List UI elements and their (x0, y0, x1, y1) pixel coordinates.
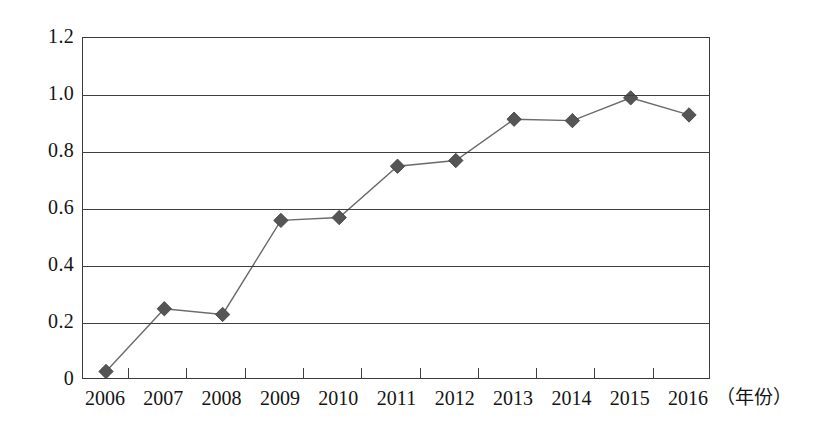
data-point-marker (682, 108, 696, 122)
x-axis-tick-label: 2009 (260, 386, 300, 410)
data-point-marker (449, 153, 463, 167)
series-line (106, 98, 689, 372)
y-axis-tick-label: 0.2 (48, 311, 74, 331)
x-axis-tick-label: 2008 (202, 386, 242, 410)
y-axis-tick-label: 0.8 (48, 140, 74, 160)
x-axis-tick-mark (594, 368, 595, 379)
x-axis-tick-mark (653, 368, 654, 379)
x-axis-tick-label: 2010 (318, 386, 358, 410)
x-axis-tick-label: 2006 (85, 386, 125, 410)
line-chart: 00.20.40.60.81.01.2 （年份） 200620072008200… (0, 0, 822, 435)
x-axis-tick-label: 2007 (143, 386, 183, 410)
gridline (83, 95, 709, 96)
x-axis-tick-mark (536, 368, 537, 379)
x-axis-tick-label: 2013 (493, 386, 533, 410)
data-point-marker (507, 112, 521, 126)
gridline (83, 266, 709, 267)
y-axis-tick-label: 1.2 (48, 26, 74, 46)
data-point-marker (624, 91, 638, 105)
x-axis-tick-label: 2016 (668, 386, 708, 410)
data-point-marker (274, 213, 288, 227)
x-axis-tick-label: 2011 (377, 386, 416, 410)
y-axis-tick-label: 0 (64, 368, 74, 388)
y-axis-tick-label: 0.6 (48, 197, 74, 217)
data-point-marker (565, 113, 579, 127)
gridline (83, 152, 709, 153)
x-axis-tick-mark (303, 368, 304, 379)
x-axis-tick-mark (420, 368, 421, 379)
x-axis-tick-mark (361, 368, 362, 379)
x-axis-tick-labels: （年份） 20062007200820092010201120122013201… (0, 386, 822, 418)
gridline (83, 323, 709, 324)
x-axis-tick-mark (478, 368, 479, 379)
y-axis-tick-label: 0.4 (48, 254, 74, 274)
x-axis-tick-mark (128, 368, 129, 379)
x-axis-tick-label: 2015 (610, 386, 650, 410)
y-axis-tick-label: 1.0 (48, 83, 74, 103)
x-axis-tick-label: 2012 (435, 386, 475, 410)
x-axis-unit-label: （年份） (716, 386, 792, 410)
x-axis-tick-mark (186, 368, 187, 379)
y-axis-tick-labels: 00.20.40.60.81.01.2 (0, 0, 74, 435)
gridline (83, 209, 709, 210)
x-axis-tick-mark (245, 368, 246, 379)
x-axis-tick-label: 2014 (551, 386, 591, 410)
x-axis-tick-mark (709, 368, 710, 379)
data-point-marker (215, 307, 229, 321)
plot-area (82, 37, 710, 379)
